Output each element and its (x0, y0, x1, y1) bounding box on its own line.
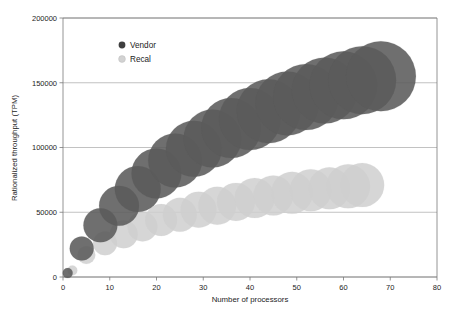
x-tick-label: 60 (339, 283, 347, 292)
x-tick-label: 50 (293, 283, 301, 292)
x-tick-label: 80 (433, 283, 441, 292)
x-tick-label: 20 (152, 283, 160, 292)
x-tick-label: 0 (61, 283, 65, 292)
bubble-chart-figure: 050000100000150000200000 010203040506070… (0, 0, 459, 317)
y-tick-label: 200000 (32, 14, 57, 23)
data-bubble (63, 268, 73, 278)
x-tick-label: 30 (199, 283, 207, 292)
y-tick-label: 50000 (36, 208, 57, 217)
chart-canvas: 050000100000150000200000 010203040506070… (0, 0, 459, 317)
legend-label-vendor: Vendor (130, 41, 156, 50)
data-bubble (346, 41, 416, 111)
x-tick-label: 40 (246, 283, 254, 292)
data-bubble (340, 163, 384, 207)
x-axis-title: Number of processors (212, 295, 289, 304)
y-tick-label: 100000 (32, 143, 57, 152)
y-axis-title: Rationalized throughput (TPM) (10, 95, 19, 202)
x-tick-label: 10 (106, 283, 114, 292)
y-tick-label: 0 (53, 273, 57, 282)
legend-label-recal: Recal (130, 55, 151, 64)
legend-marker-recal (119, 56, 126, 63)
data-bubble (70, 237, 94, 261)
x-tick-label: 70 (386, 283, 394, 292)
legend-marker-vendor (119, 42, 126, 49)
y-tick-label: 150000 (32, 79, 57, 88)
